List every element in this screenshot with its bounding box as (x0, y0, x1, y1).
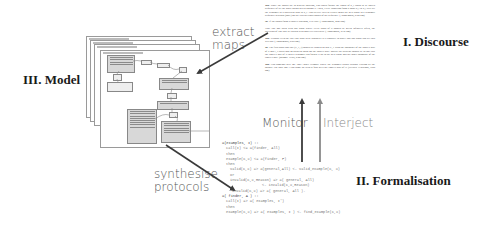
extract-maps-arrow (198, 33, 268, 73)
flow-arrows (0, 0, 481, 237)
synthesise-protocols-arrow (166, 145, 234, 190)
